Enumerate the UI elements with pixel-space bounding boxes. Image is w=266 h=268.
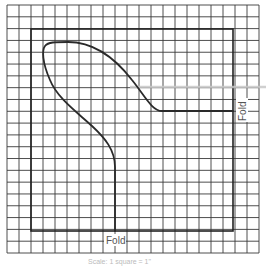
fold-right-label: Fold <box>237 102 248 121</box>
fold-bottom-label: Fold <box>106 235 125 246</box>
pattern-piece-outline <box>43 42 233 231</box>
pattern-diagram: Fold Fold Scale: 1 square = 1" <box>0 0 266 268</box>
outline-rectangle <box>31 29 233 231</box>
scale-caption: Scale: 1 square = 1" <box>88 258 152 266</box>
grid-lines <box>7 5 259 253</box>
